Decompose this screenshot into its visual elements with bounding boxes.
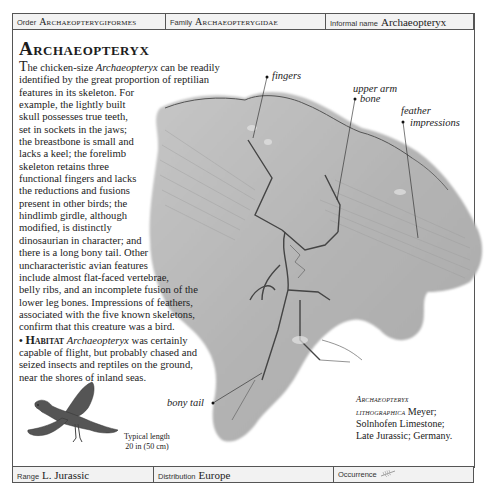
description-line: hindlimb girdle, although bbox=[19, 210, 220, 222]
distribution-value: Europe bbox=[199, 469, 231, 481]
habitat-line: • Habitat Archaeopteryx was certainly bbox=[19, 334, 220, 347]
description: The chicken-size Archaeopteryx can be re… bbox=[19, 61, 220, 384]
description-line: lower leg bones. Impressions of feathers… bbox=[19, 297, 220, 309]
range-label: Range bbox=[17, 472, 39, 481]
typical-length-label: Typical length bbox=[124, 432, 170, 442]
order-label: Order bbox=[17, 18, 36, 27]
description-line: include almost flat-faced vertebrae, bbox=[19, 272, 220, 284]
specimen-caption: Archaeopteryx lithographica Meyer; Solnh… bbox=[356, 394, 452, 441]
species-author: Meyer; bbox=[405, 406, 436, 417]
description-line: functional fingers and lacks bbox=[19, 173, 220, 185]
annotation-upper-arm-bone: bone bbox=[360, 94, 380, 104]
description-line: identified by the great proportion of re… bbox=[19, 74, 220, 86]
description-line: The chicken-size Archaeopteryx can be re… bbox=[19, 61, 220, 74]
bullet-icon: • bbox=[19, 335, 23, 346]
feather-icon bbox=[380, 469, 396, 477]
family-label: Family bbox=[170, 18, 192, 27]
range-value: L. Jurassic bbox=[42, 469, 89, 481]
annotation-bony-tail: bony tail bbox=[167, 398, 204, 408]
description-line: uncharacteristic avian features bbox=[19, 260, 220, 272]
description-line: example, the lightly built bbox=[19, 99, 220, 111]
species-genus: Archaeopteryx bbox=[356, 394, 452, 406]
annotation-feather-impressions: impressions bbox=[410, 118, 460, 128]
habitat-heading: Habitat bbox=[25, 333, 64, 347]
distribution-label: Distribution bbox=[158, 472, 196, 481]
distribution-cell: Distribution Europe bbox=[153, 467, 333, 482]
habitat-line: seized insects and reptiles on the groun… bbox=[19, 359, 220, 371]
description-line: lacks a keel; the forelimb bbox=[19, 148, 220, 160]
description-line: there is a long bony tail. Other bbox=[19, 247, 220, 259]
typical-length-value: 20 in (50 cm) bbox=[124, 442, 170, 452]
informal-name-value: Archaeopteryx bbox=[381, 16, 446, 28]
typical-length: Typical length 20 in (50 cm) bbox=[124, 432, 170, 451]
order-cell: Order Archaeopterygiformes bbox=[13, 14, 165, 29]
occurrence-label: Occurrence bbox=[338, 470, 377, 479]
description-line: belly ribs, and an incomplete fusion of … bbox=[19, 284, 220, 296]
description-line: associated with the five known skeletons… bbox=[19, 309, 220, 321]
specimen-age: Late Jurassic; Germany. bbox=[356, 430, 452, 442]
description-line: dinosaurian in character; and bbox=[19, 235, 220, 247]
annotation-feather: feather bbox=[401, 106, 431, 116]
classification-bar: Order Archaeopterygiformes Family Archae… bbox=[12, 13, 474, 30]
description-line: features in its skeleton. For bbox=[19, 87, 220, 99]
description-line: present in other birds; the bbox=[19, 198, 220, 210]
description-line: skeleton retains three bbox=[19, 161, 220, 173]
informal-name-label: Informal name bbox=[330, 19, 378, 28]
informal-name-cell: Informal name Archaeopteryx bbox=[325, 14, 473, 29]
habitat-line: capable of flight, but probably chased a… bbox=[19, 347, 220, 359]
description-line: the reductions and fusions bbox=[19, 185, 220, 197]
habitat-genus: Archaeopteryx bbox=[67, 335, 129, 346]
family-value: Archaeopterygidae bbox=[195, 16, 278, 27]
annotation-fingers: fingers bbox=[272, 71, 301, 81]
range-cell: Range L. Jurassic bbox=[13, 467, 153, 482]
family-cell: Family Archaeopterygidae bbox=[165, 14, 325, 29]
species-epithet: lithographica bbox=[356, 407, 405, 417]
description-line: modified, is distinctly bbox=[19, 222, 220, 234]
order-value: Archaeopterygiformes bbox=[39, 16, 136, 27]
bird-reconstruction-icon bbox=[20, 378, 125, 448]
description-line: skull possesses true teeth, bbox=[19, 111, 220, 123]
occurrence-cell: Occurrence bbox=[333, 467, 473, 482]
description-line: set in sockets in the jaws; bbox=[19, 124, 220, 136]
specimen-locality: Solnhofen Limestone; bbox=[356, 418, 452, 430]
drop-cap: T bbox=[19, 59, 28, 74]
description-line: the breastbone is small and bbox=[19, 136, 220, 148]
genus-name: Archaeopteryx bbox=[96, 62, 158, 73]
range-bar: Range L. Jurassic Distribution Europe Oc… bbox=[12, 466, 474, 483]
page-title: Archaeopteryx bbox=[19, 38, 149, 60]
